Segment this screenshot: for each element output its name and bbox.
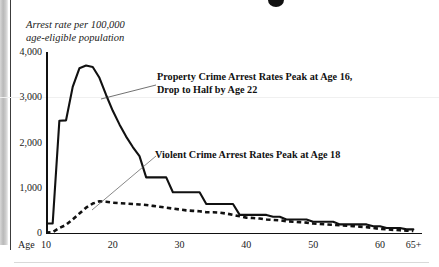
x-tick-label: 40 [241, 239, 251, 250]
x-axis-name-label: Age [18, 239, 35, 250]
property-crime-annotation: Property Crime Arrest Rates Peak at Age … [157, 70, 352, 96]
violent-crime-annotation: Violent Crime Arrest Rates Peak at Age 1… [155, 148, 340, 161]
cropped-title-glyph [268, 0, 284, 7]
y-tick-label: 3,000 [20, 91, 43, 102]
y-tick-label: 2,000 [20, 137, 43, 148]
x-tick-label: 65+ [406, 239, 422, 250]
x-tick-label: 20 [108, 239, 118, 250]
x-tick-label: 60 [375, 239, 385, 250]
property-annotation-line1: Property Crime Arrest Rates Peak at Age … [157, 70, 352, 83]
property-annotation-line2: Drop to Half by Age 22 [157, 83, 352, 96]
x-tick-label: 50 [308, 239, 318, 250]
property-annotation-leader-line [101, 85, 156, 99]
y-tick-label: 1,000 [20, 182, 43, 193]
violent-annotation-line1: Violent Crime Arrest Rates Peak at Age 1… [155, 148, 340, 161]
x-tick-label: 30 [175, 239, 185, 250]
violent-crime-line [46, 201, 413, 232]
y-tick-label: 0 [37, 227, 42, 238]
y-tick-labels: 01,0002,0003,0004,000 [0, 0, 42, 267]
violent-annotation-leader-line [92, 156, 156, 210]
page-bottom-rule [14, 262, 429, 263]
x-tick-label: 10 [41, 239, 51, 250]
figure-container: Arrest rate per 100,000 age-eligible pop… [0, 0, 439, 267]
y-tick-label: 4,000 [20, 46, 43, 57]
